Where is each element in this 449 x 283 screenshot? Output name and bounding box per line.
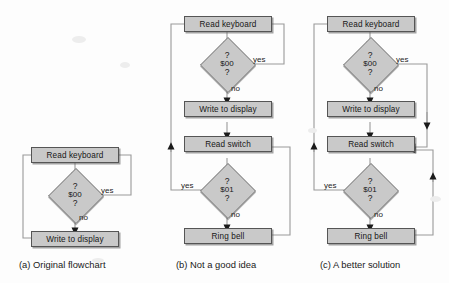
question-mark-bottom: ? — [220, 194, 233, 203]
caption-panel-a: (a) Original flowchart — [19, 259, 106, 270]
decision-label: ? $00 ? — [363, 51, 376, 78]
node-decision-01[interactable]: ? $01 ? — [343, 163, 397, 217]
node-decision-00[interactable]: ? $00 ? — [200, 37, 254, 91]
edge-label-yes-00: yes — [396, 55, 408, 64]
node-read-switch[interactable]: Read switch — [327, 136, 415, 152]
node-decision-00[interactable]: ? $00 ? — [48, 168, 102, 222]
decision-label: ? $00 ? — [220, 51, 233, 78]
node-write-to-display[interactable]: Write to display — [31, 231, 119, 247]
edge-label-no-01: no — [374, 210, 383, 219]
node-ring-bell[interactable]: Ring bell — [184, 228, 272, 244]
scan-artifact — [120, 62, 130, 68]
node-read-switch[interactable]: Read switch — [184, 136, 272, 152]
caption-panel-c: (c) A better solution — [320, 259, 400, 270]
question-mark-bottom: ? — [220, 68, 233, 77]
edge-label-yes-01: yes — [324, 181, 336, 190]
edge-label-yes: yes — [101, 186, 113, 195]
flowchart-figure: Read keyboard ? $00 ? Write to display y… — [0, 0, 449, 283]
node-decision-00[interactable]: ? $00 ? — [343, 37, 397, 91]
node-write-to-display[interactable]: Write to display — [184, 101, 272, 117]
edge-label-yes-00: yes — [253, 55, 265, 64]
decision-label: ? $01 ? — [220, 177, 233, 204]
edge-label-no-00: no — [374, 84, 383, 93]
caption-panel-b: (b) Not a good idea — [176, 259, 256, 270]
edge-label-yes-01: yes — [181, 181, 193, 190]
node-read-keyboard[interactable]: Read keyboard — [327, 16, 415, 32]
question-mark-bottom: ? — [363, 194, 376, 203]
question-mark-bottom: ? — [68, 199, 81, 208]
edge-label-no-01: no — [231, 210, 240, 219]
question-mark-bottom: ? — [363, 68, 376, 77]
node-ring-bell[interactable]: Ring bell — [327, 228, 415, 244]
node-decision-01[interactable]: ? $01 ? — [200, 163, 254, 217]
node-write-to-display[interactable]: Write to display — [327, 101, 415, 117]
decision-label: ? $01 ? — [363, 177, 376, 204]
node-read-keyboard[interactable]: Read keyboard — [184, 16, 272, 32]
scan-artifact — [308, 128, 317, 133]
scan-artifact — [430, 196, 441, 202]
scan-artifact — [72, 36, 86, 43]
decision-label: ? $00 ? — [68, 182, 81, 209]
edge-label-no: no — [79, 213, 88, 222]
node-read-keyboard[interactable]: Read keyboard — [31, 147, 119, 163]
edge-label-no-00: no — [231, 84, 240, 93]
